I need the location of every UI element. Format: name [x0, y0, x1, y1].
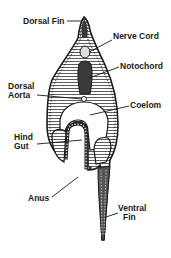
label-hind-gut-line2: Gut	[14, 142, 33, 151]
dorsal-aorta-shape	[82, 97, 87, 102]
label-hind-gut: Hind Gut	[14, 133, 33, 151]
label-dorsal-aorta-line2: Aorta	[8, 91, 34, 100]
label-coelom: Coelom	[130, 101, 161, 110]
label-dorsal-fin: Dorsal Fin	[23, 17, 65, 26]
label-dorsal-aorta: Dorsal Aorta	[8, 82, 34, 100]
nerve-cord-shape	[80, 46, 90, 58]
label-anus: Anus	[28, 194, 49, 203]
label-ventral-fin: Ventral Fin	[118, 204, 146, 222]
label-nerve-cord: Nerve Cord	[113, 32, 159, 41]
ventral-fin-shape	[98, 166, 110, 240]
label-ventral-fin-line2: Fin	[118, 213, 146, 222]
left-lobe	[52, 129, 66, 162]
amphioxus-diagram: Dorsal Fin Nerve Cord Notochord Dorsal A…	[0, 0, 171, 258]
label-notochord: Notochord	[120, 62, 163, 71]
